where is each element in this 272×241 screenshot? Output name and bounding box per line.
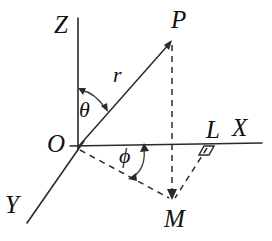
x-axis-label: X	[232, 115, 247, 140]
point-m-label: M	[164, 206, 185, 231]
y-axis-label: Y	[5, 192, 19, 217]
azimuth-angle-label: ϕ	[119, 145, 130, 167]
radius-label: r	[113, 64, 122, 86]
spherical-coordinates-diagram: Z P r θ O L X ϕ Y M	[0, 0, 272, 241]
azimuth-angle-arc	[133, 149, 144, 177]
right-angle-marker-at-l	[199, 146, 214, 155]
origin-label: O	[47, 131, 65, 156]
point-l-label: L	[206, 117, 220, 142]
radius-ray-line	[78, 44, 169, 147]
polar-angle-label: θ	[79, 99, 90, 121]
z-axis-label: Z	[54, 12, 68, 37]
x-axis-line	[70, 143, 262, 146]
point-p-label: P	[171, 7, 186, 32]
